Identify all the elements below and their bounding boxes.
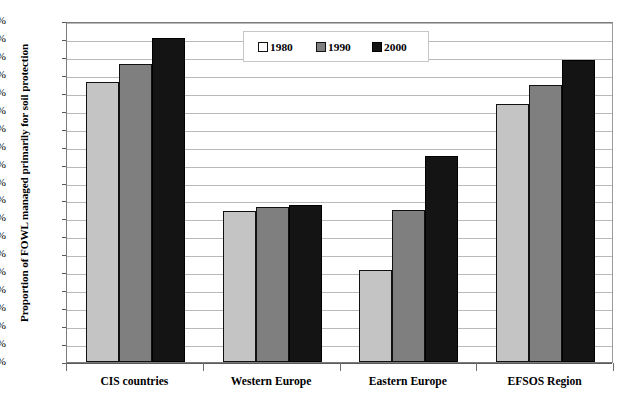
gridline [67, 23, 612, 24]
y-tick-label: 15% [0, 86, 6, 98]
x-group-label-efsos-region: EFSOS Region [476, 375, 613, 388]
y-tick-label: 6% [0, 247, 6, 259]
y-tick-label: 8% [0, 211, 6, 223]
bar-efsos-region-1990 [529, 85, 562, 362]
y-tick-label: 11% [0, 158, 6, 170]
bar-western-europe-1980 [223, 211, 256, 362]
plot-inner [67, 23, 612, 362]
legend-label-1990: 1990 [328, 41, 351, 53]
y-tick-label: 14% [0, 104, 6, 116]
legend-swatch-icon-1990 [316, 42, 326, 52]
bar-eastern-europe-1990 [392, 210, 425, 362]
legend-entry-2000[interactable]: 2000 [372, 39, 407, 55]
bar-western-europe-1990 [256, 207, 289, 362]
bar-chart: Proportion of FOWL managed primarily for… [0, 0, 624, 407]
x-axis-tick [340, 363, 341, 371]
x-group-label-western-europe: Western Europe [203, 375, 340, 388]
x-group-label-cis-countries: CIS countries [66, 375, 203, 388]
bar-eastern-europe-2000 [425, 156, 458, 362]
legend-entry-1980[interactable]: 1980 [258, 39, 293, 55]
y-tick-label: 2% [0, 319, 6, 331]
bar-cis-countries-1990 [119, 64, 152, 362]
y-tick-label: 18% [0, 32, 6, 44]
y-tick-label: 3% [0, 301, 6, 313]
x-group-label-eastern-europe: Eastern Europe [340, 375, 477, 388]
y-tick-label: 4% [0, 283, 6, 295]
y-tick-label: 16% [0, 68, 6, 80]
bar-cis-countries-2000 [152, 38, 185, 362]
legend-swatch-icon-1980 [258, 42, 268, 52]
y-axis-title: Proportion of FOWL managed primarily for… [18, 13, 30, 353]
legend-label-1980: 1980 [270, 41, 293, 53]
x-axis-tick [613, 363, 614, 371]
y-tick-label: 19% [0, 14, 6, 26]
x-axis-tick [203, 363, 204, 371]
legend-swatch-icon-2000 [372, 42, 382, 52]
bar-cis-countries-1980 [86, 82, 119, 362]
x-axis-tick [66, 363, 67, 371]
plot-area [66, 22, 613, 363]
y-tick-label: 13% [0, 122, 6, 134]
y-tick-label: 7% [0, 229, 6, 241]
legend-label-2000: 2000 [384, 41, 407, 53]
bar-eastern-europe-1980 [359, 270, 392, 362]
y-tick-label: 10% [0, 176, 6, 188]
y-tick-label: 12% [0, 140, 6, 152]
bar-western-europe-2000 [289, 205, 322, 362]
bar-efsos-region-1980 [496, 104, 529, 362]
y-tick-label: 0% [0, 355, 6, 367]
legend: 198019902000 [243, 31, 429, 62]
bar-efsos-region-2000 [562, 60, 595, 362]
y-tick-label: 17% [0, 50, 6, 62]
x-axis-tick [476, 363, 477, 371]
y-tick-label: 9% [0, 193, 6, 205]
y-tick-label: 1% [0, 337, 6, 349]
chart-title-sliver [0, 0, 624, 7]
y-tick-label: 5% [0, 265, 6, 277]
legend-entry-1990[interactable]: 1990 [316, 39, 351, 55]
